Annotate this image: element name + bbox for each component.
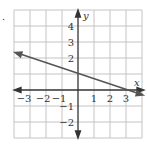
x-tick: 1: [91, 93, 97, 104]
line-left-arrow-icon: [15, 52, 22, 57]
x-tick: −3: [17, 93, 32, 104]
x-axis-left-arrow-icon: [14, 88, 21, 93]
x-tick: 3: [123, 93, 129, 104]
y-axis-label: y: [82, 10, 89, 21]
coordinate-graph: . −3 −2 −1 1 2 3 4: [0, 0, 147, 148]
problem-marker: .: [2, 11, 5, 22]
x-tick: −2: [36, 93, 51, 104]
y-tick: 2: [68, 53, 74, 64]
y-axis-down-arrow-icon: [76, 131, 81, 138]
y-tick: −2: [59, 117, 74, 128]
x-axis-label: x: [134, 77, 140, 88]
y-axis-up-arrow-icon: [76, 10, 81, 17]
y-tick: 4: [68, 21, 74, 32]
y-tick: −1: [59, 101, 74, 112]
x-tick: 2: [107, 93, 113, 104]
y-tick: 3: [68, 37, 74, 48]
